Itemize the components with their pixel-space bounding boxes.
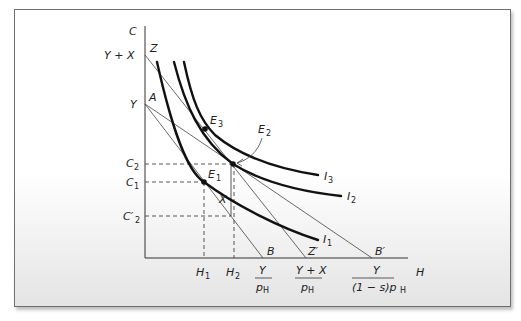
c-axis-label: C [129, 25, 137, 38]
svg-text:2: 2 [135, 216, 140, 225]
label-i1: I 1 [323, 233, 332, 248]
label-z: Z [149, 42, 158, 55]
svg-text:C: C [126, 176, 134, 189]
svg-text:p: p [300, 281, 308, 294]
svg-text:(1 − s)p: (1 − s)p [352, 281, 397, 294]
svg-text:C′: C′ [123, 210, 134, 223]
tick-c2-prime: C′ 2 [123, 210, 140, 225]
svg-text:H: H [400, 286, 406, 295]
tick-h1: H 1 [196, 266, 210, 281]
tick-c2: C 2 [126, 157, 139, 172]
svg-text:H: H [226, 266, 234, 279]
label-e3: E 3 [210, 114, 223, 129]
svg-text:Y + X: Y + X [296, 264, 327, 277]
svg-text:E: E [258, 123, 265, 136]
point-e2 [230, 161, 236, 167]
diagram-canvas: C H Y + X Y C 2 C 1 C′ 2 Z A B Z′ B′ X E… [0, 0, 521, 321]
tick-c1: C 1 [126, 176, 139, 191]
svg-text:3: 3 [218, 120, 223, 129]
label-a: A [148, 91, 157, 104]
svg-text:Y: Y [373, 264, 381, 277]
svg-text:H: H [196, 266, 204, 279]
label-z-prime: Z′ [307, 245, 319, 258]
label-e1: E 1 [208, 168, 221, 183]
svg-text:2: 2 [235, 272, 240, 281]
tick-y: Y [130, 98, 138, 111]
svg-text:1: 1 [134, 182, 139, 191]
h-axis-label: H [416, 266, 424, 279]
svg-text:I: I [324, 170, 327, 183]
svg-text:2: 2 [134, 163, 139, 172]
label-x: X [218, 193, 227, 206]
svg-text:2: 2 [351, 196, 356, 205]
svg-text:Y: Y [259, 264, 267, 277]
svg-text:I: I [323, 233, 326, 246]
svg-text:3: 3 [328, 176, 333, 185]
indifference-curve-i3 [184, 62, 318, 175]
svg-text:2: 2 [266, 129, 271, 138]
point-e1 [201, 179, 207, 185]
tick-y-plus-x: Y + X [104, 49, 135, 62]
svg-text:I: I [347, 190, 350, 203]
svg-text:H: H [308, 286, 314, 295]
arrowhead-icon [237, 159, 243, 166]
tick-y-over-ph: Y p H [255, 264, 272, 295]
point-e3 [202, 126, 208, 132]
label-e2: E 2 [258, 123, 271, 138]
svg-text:1: 1 [327, 239, 332, 248]
svg-text:E: E [208, 168, 215, 181]
tick-h2: H 2 [226, 266, 240, 281]
svg-text:E: E [210, 114, 217, 127]
tick-y-over-1-minus-s-ph: Y (1 − s)p H [352, 264, 406, 295]
svg-text:C: C [126, 157, 134, 170]
label-i3: I 3 [324, 170, 333, 185]
svg-text:1: 1 [216, 174, 221, 183]
tick-y-plus-x-over-ph: Y + X p H [295, 264, 327, 295]
svg-text:p: p [255, 281, 263, 294]
label-b: B [267, 245, 275, 258]
svg-text:1: 1 [205, 272, 210, 281]
label-i2: I 2 [347, 190, 356, 205]
svg-text:H: H [263, 286, 269, 295]
label-b-prime: B′ [375, 245, 386, 258]
